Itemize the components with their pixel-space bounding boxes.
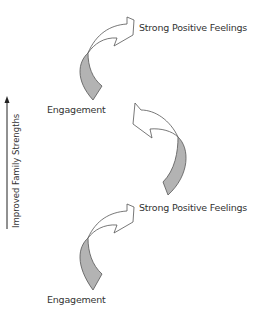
label-strong-positive-top: Strong Positive Feelings (139, 22, 247, 33)
curved-arrow-top (80, 17, 134, 100)
label-strong-positive-bottom: Strong Positive Feelings (139, 202, 247, 213)
axis-label: Improved Family Strengths (11, 114, 21, 228)
spiral-diagram (0, 0, 254, 313)
curved-arrow-middle (133, 103, 186, 195)
label-engagement-bottom: Engagement (47, 294, 106, 305)
axis-arrow-icon (5, 96, 10, 229)
curved-arrow-bottom (80, 204, 134, 290)
label-engagement-top: Engagement (47, 104, 106, 115)
